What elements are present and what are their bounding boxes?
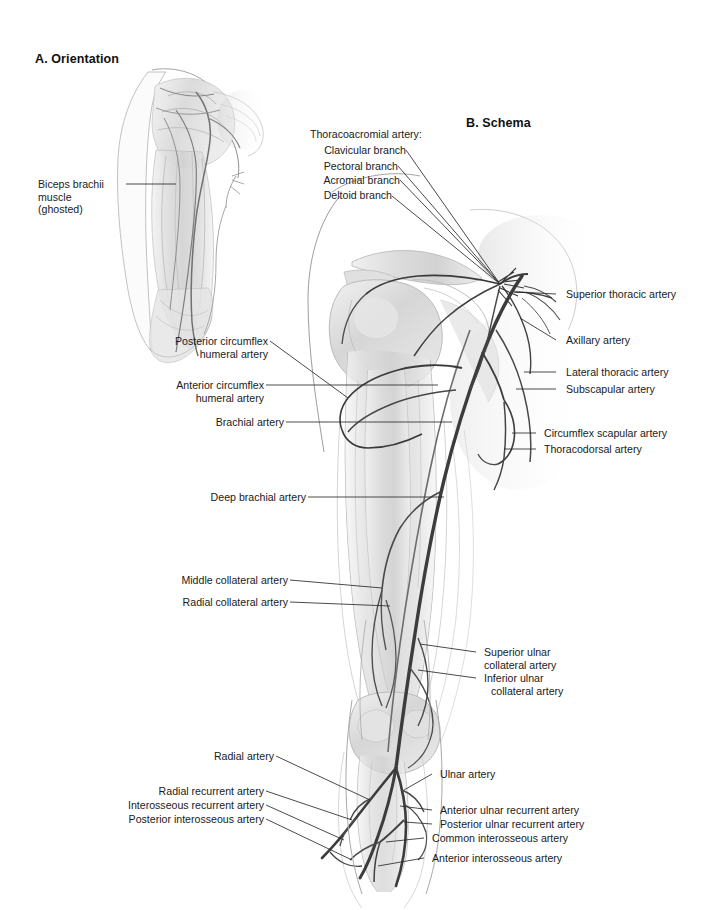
schema-illustration <box>266 150 602 908</box>
label-circumflex-scapular-artery: Circumflex scapular artery <box>544 427 667 440</box>
leader-superior-ulnar-collateral <box>420 644 476 652</box>
label-anterior-circumflex-humeral-line1: Anterior circumflex <box>176 379 264 391</box>
label-acromial-branch: Acromial branch <box>190 174 400 187</box>
label-superior-ulnar-collateral-line1: Superior ulnar <box>484 646 551 658</box>
label-interosseous-recurrent-artery: Interosseous recurrent artery <box>46 799 264 812</box>
leader-interosseous-recurrent <box>266 805 344 840</box>
orientation-illustration <box>117 69 269 363</box>
label-radial-collateral-artery: Radial collateral artery <box>80 596 288 609</box>
label-middle-collateral-artery: Middle collateral artery <box>80 574 288 587</box>
label-radial-artery: Radial artery <box>96 750 274 763</box>
label-biceps-brachii-line1: Biceps brachii <box>38 178 104 190</box>
label-deltoid-branch: Deltoid branch <box>182 189 392 202</box>
label-lateral-thoracic-artery: Lateral thoracic artery <box>566 366 668 379</box>
label-clavicular-branch: Clavicular branch <box>196 144 406 157</box>
label-biceps-brachii-line3: (ghosted) <box>38 203 104 216</box>
label-subscapular-artery: Subscapular artery <box>566 383 655 396</box>
label-inferior-ulnar-collateral-line2: collateral artery <box>484 685 563 698</box>
label-thoracodorsal-artery: Thoracodorsal artery <box>544 443 642 456</box>
label-superior-thoracic-artery: Superior thoracic artery <box>566 288 676 301</box>
label-common-interosseous-artery: Common interosseous artery <box>432 832 568 845</box>
label-pectoral-branch: Pectoral branch <box>188 160 398 173</box>
label-posterior-circumflex-humeral-artery: Posterior circumflex humeral artery <box>60 335 268 360</box>
label-superior-ulnar-collateral-line2: collateral artery <box>484 659 556 672</box>
label-posterior-circumflex-humeral-line1: Posterior circumflex <box>175 335 268 347</box>
label-superior-ulnar-collateral-artery: Superior ulnar collateral artery <box>484 646 556 671</box>
label-inferior-ulnar-collateral-artery: Inferior ulnar collateral artery <box>484 672 563 697</box>
label-anterior-circumflex-humeral-line2: humeral artery <box>56 392 264 405</box>
label-posterior-ulnar-recurrent-artery: Posterior ulnar recurrent artery <box>440 818 584 831</box>
panel-b-title: B. Schema <box>466 116 531 130</box>
leader-radial <box>276 756 370 800</box>
label-anterior-circumflex-humeral-artery: Anterior circumflex humeral artery <box>56 379 264 404</box>
label-anterior-interosseous-artery: Anterior interosseous artery <box>432 852 562 865</box>
label-ulnar-artery: Ulnar artery <box>440 768 495 781</box>
label-radial-recurrent-artery: Radial recurrent artery <box>56 785 264 798</box>
label-posterior-interosseous-artery: Posterior interosseous artery <box>46 813 264 826</box>
label-biceps-brachii: Biceps brachii muscle (ghosted) <box>38 178 104 216</box>
anatomy-plate: A. Orientation B. Schema Biceps brachii … <box>0 0 716 910</box>
leader-ulnar <box>404 774 432 790</box>
panel-a-title: A. Orientation <box>35 52 119 66</box>
label-axillary-artery: Axillary artery <box>566 334 630 347</box>
label-biceps-brachii-line2: muscle <box>38 191 104 204</box>
label-posterior-circumflex-humeral-line2: humeral artery <box>60 348 268 361</box>
label-anterior-ulnar-recurrent-artery: Anterior ulnar recurrent artery <box>440 804 579 817</box>
label-inferior-ulnar-collateral-line1: Inferior ulnar <box>484 672 543 684</box>
leader-inferior-ulnar-collateral <box>418 670 476 678</box>
label-deep-brachial-artery: Deep brachial artery <box>98 491 306 504</box>
label-thoracoacromial-header: Thoracoacromial artery: <box>310 128 422 141</box>
label-brachial-artery: Brachial artery <box>76 416 284 429</box>
